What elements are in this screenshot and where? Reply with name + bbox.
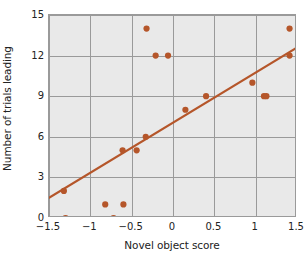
data-point-marker <box>165 53 171 59</box>
plot-area <box>48 14 296 217</box>
x-axis-tick-label: −1.5 <box>36 221 60 232</box>
gridlines <box>49 15 296 217</box>
data-point-marker <box>286 53 292 59</box>
data-point-marker <box>143 25 149 31</box>
data-point-marker <box>120 201 126 207</box>
y-axis-tick-label: 3 <box>18 171 44 182</box>
x-axis-tick-label: −0.5 <box>119 221 143 232</box>
x-axis-tick-label: 1 <box>251 221 257 232</box>
data-point-marker <box>153 53 159 59</box>
x-axis-tick-label: 1.5 <box>288 221 304 232</box>
data-point-marker <box>102 201 108 207</box>
data-point-marker <box>263 93 269 99</box>
regression-line-segment <box>49 47 296 197</box>
y-axis-tick-label: 15 <box>18 9 44 20</box>
y-axis-tick-label: 12 <box>18 49 44 60</box>
x-axis-title: Novel object score <box>48 239 296 251</box>
y-axis-title: Number of trials leading <box>0 0 14 217</box>
plot-canvas <box>49 15 296 217</box>
data-point-marker <box>143 134 149 140</box>
data-point-marker <box>110 215 116 217</box>
data-point-marker <box>286 25 292 31</box>
scatter-chart-figure: Number of trials leading 03691215 −1.5−1… <box>0 0 306 261</box>
x-axis-tick-label: −1 <box>82 221 97 232</box>
y-axis-tick-label: 9 <box>18 90 44 101</box>
data-point-marker <box>182 107 188 113</box>
data-point-marker <box>119 147 125 153</box>
x-axis-tick-labels: −1.5−1−0.500.511.5 <box>0 221 306 237</box>
x-axis-tick-label: 0.5 <box>205 221 221 232</box>
data-point-marker <box>62 215 68 217</box>
y-axis-tick-label: 6 <box>18 130 44 141</box>
regression-line <box>49 47 296 197</box>
data-point-marker <box>203 93 209 99</box>
data-point-marker <box>134 147 140 153</box>
x-axis-tick-label: 0 <box>169 221 175 232</box>
data-point-marker <box>249 80 255 86</box>
data-point-marker <box>61 188 67 194</box>
